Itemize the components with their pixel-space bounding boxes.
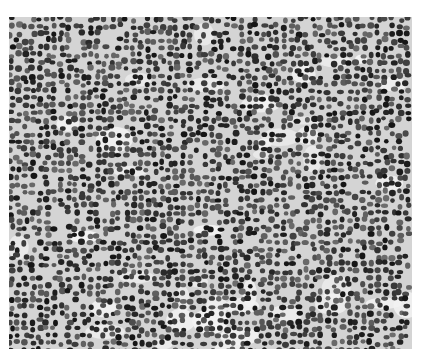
histology-micrograph	[9, 17, 412, 349]
cell-field	[9, 17, 412, 349]
